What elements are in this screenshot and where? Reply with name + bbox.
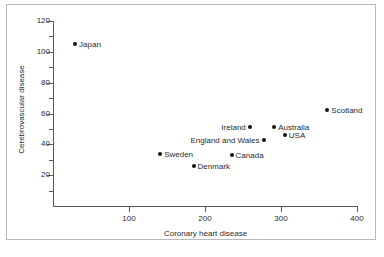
y-tick-label-40: 40: [28, 140, 50, 148]
y-minor-tick-30: [49, 160, 53, 161]
y-tick-label-100: 100: [28, 48, 50, 56]
point-label: Sweden: [164, 149, 193, 158]
y-tick-label-20: 20: [28, 171, 50, 179]
point-label: Canada: [236, 151, 264, 160]
x-tick-label-200: 200: [190, 214, 220, 223]
point-label: Japan: [79, 40, 101, 49]
data-point: [230, 153, 234, 157]
data-point: [262, 138, 266, 142]
y-minor-tick-50: [49, 129, 53, 130]
data-point: [158, 152, 162, 156]
y-tick-label-80: 80: [28, 79, 50, 87]
x-tick-label-400: 400: [342, 214, 372, 223]
point-label: Ireland: [221, 123, 245, 132]
point-label: Denmark: [198, 161, 230, 170]
data-point: [192, 164, 196, 168]
y-axis-title: Cerebrovascular disease: [17, 45, 26, 175]
scatter-plot: 20406080100120 100200300400 JapanSwedenD…: [0, 0, 384, 257]
point-label: USA: [289, 131, 305, 140]
y-minor-tick-10: [49, 191, 53, 192]
x-tick-300: [281, 207, 282, 212]
data-point: [325, 108, 329, 112]
x-tick-100: [129, 207, 130, 212]
point-label: England and Wales: [190, 135, 259, 144]
point-label: Scotland: [331, 106, 362, 115]
x-axis-title: Coronary heart disease: [53, 229, 358, 238]
y-minor-tick-110: [49, 36, 53, 37]
x-tick-400: [357, 207, 358, 212]
y-tick-label-120: 120: [28, 17, 50, 25]
data-point: [283, 133, 287, 137]
data-point: [248, 125, 252, 129]
x-tick-label-300: 300: [266, 214, 296, 223]
y-minor-tick-70: [49, 98, 53, 99]
y-tick-label-60: 60: [28, 110, 50, 118]
data-point: [73, 42, 77, 46]
y-minor-tick-90: [49, 67, 53, 68]
x-tick-200: [205, 207, 206, 212]
data-point: [272, 125, 276, 129]
y-axis-line: [53, 21, 54, 207]
figure-root: 20406080100120 100200300400 JapanSwedenD…: [0, 0, 384, 257]
x-tick-label-100: 100: [114, 214, 144, 223]
